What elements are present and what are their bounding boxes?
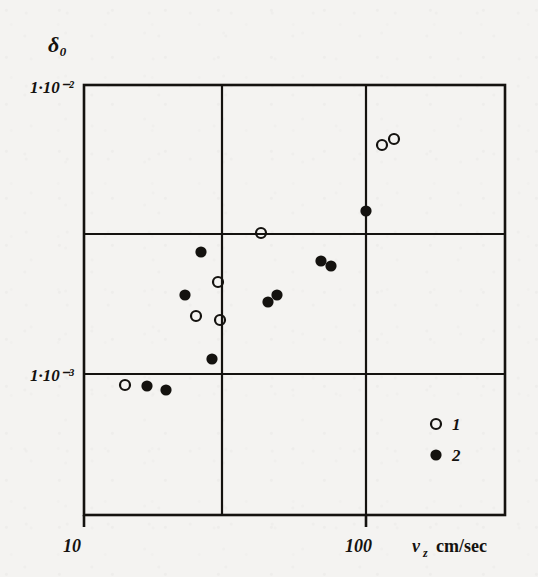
y-tick-label-top: 1·10⁻² [30, 78, 75, 97]
x-axis-symbol: v [412, 536, 421, 556]
data-point-filled [206, 353, 217, 364]
gridlines [84, 85, 505, 515]
tick-marks [84, 515, 366, 527]
frame-border [84, 85, 505, 515]
legend-label-2: 2 [451, 446, 461, 465]
data-point-filled [160, 384, 171, 395]
x-tick-label-right: 100 [345, 536, 372, 556]
data-point-filled [179, 289, 190, 300]
data-point-filled [195, 246, 206, 257]
y-tick-label-bottom: 1·10⁻³ [30, 366, 75, 385]
data-point-filled [315, 255, 326, 266]
figure-container: δ₀ 1·10⁻² 1·10⁻³ 10 100 v z cm/sec [0, 0, 538, 577]
legend: 1 2 [430, 415, 461, 465]
data-point-open [120, 380, 130, 390]
data-point-filled [360, 205, 371, 216]
y-axis-label: δ₀ [48, 32, 67, 57]
x-axis-label: v z cm/sec [412, 536, 487, 560]
legend-marker-open-circle [431, 419, 441, 429]
data-point-open [215, 315, 225, 325]
legend-marker-filled-circle [430, 449, 441, 460]
x-axis-units: cm/sec [436, 536, 487, 556]
data-point-open [191, 311, 201, 321]
plot-frame [84, 85, 505, 515]
scatter-plot: δ₀ 1·10⁻² 1·10⁻³ 10 100 v z cm/sec [0, 0, 538, 577]
data-point-filled [325, 260, 336, 271]
data-point-open [389, 134, 399, 144]
series-1-points [120, 134, 399, 390]
data-point-filled [262, 296, 273, 307]
x-tick-label-left: 10 [63, 536, 81, 556]
legend-label-1: 1 [452, 415, 461, 434]
data-point-open [377, 140, 387, 150]
data-point-filled [141, 380, 152, 391]
data-point-filled [271, 289, 282, 300]
x-axis-subscript: z [422, 546, 428, 560]
